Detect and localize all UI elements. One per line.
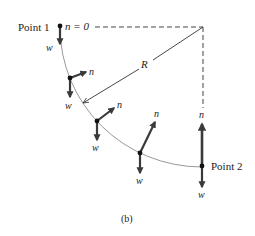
point-2-normal-label: n xyxy=(199,109,204,120)
position-2-normal-arrow xyxy=(70,72,86,78)
position-3-dot xyxy=(95,119,100,124)
point-1-weight-label: w xyxy=(46,42,53,53)
circular-motion-free-body-diagram: R Point 1 n = 0 w n w n w n w n w Point … xyxy=(0,0,255,236)
point-1-label: Point 1 xyxy=(18,21,49,33)
position-3-normal-label: n xyxy=(117,99,122,110)
position-4-dot xyxy=(138,151,143,156)
point-2-weight-label: w xyxy=(198,189,205,200)
point-2-label: Point 2 xyxy=(211,160,242,172)
position-2-dot xyxy=(68,76,73,81)
radius-line-upper xyxy=(153,27,203,60)
figure-caption: (b) xyxy=(121,213,133,225)
position-3-normal-arrow xyxy=(97,108,114,121)
position-4-normal-arrow xyxy=(140,122,155,153)
position-4-normal-label: n xyxy=(154,108,159,119)
position-4-weight-label: w xyxy=(136,175,143,186)
radius-label: R xyxy=(140,58,148,70)
point-2-dot xyxy=(200,164,205,169)
position-2-weight-label: w xyxy=(65,100,72,111)
point-1-dot xyxy=(58,24,63,29)
position-3-weight-label: w xyxy=(92,142,99,153)
circular-path-arc xyxy=(60,27,202,167)
position-2-normal-label: n xyxy=(89,66,94,77)
n-zero-label: n = 0 xyxy=(65,20,89,32)
